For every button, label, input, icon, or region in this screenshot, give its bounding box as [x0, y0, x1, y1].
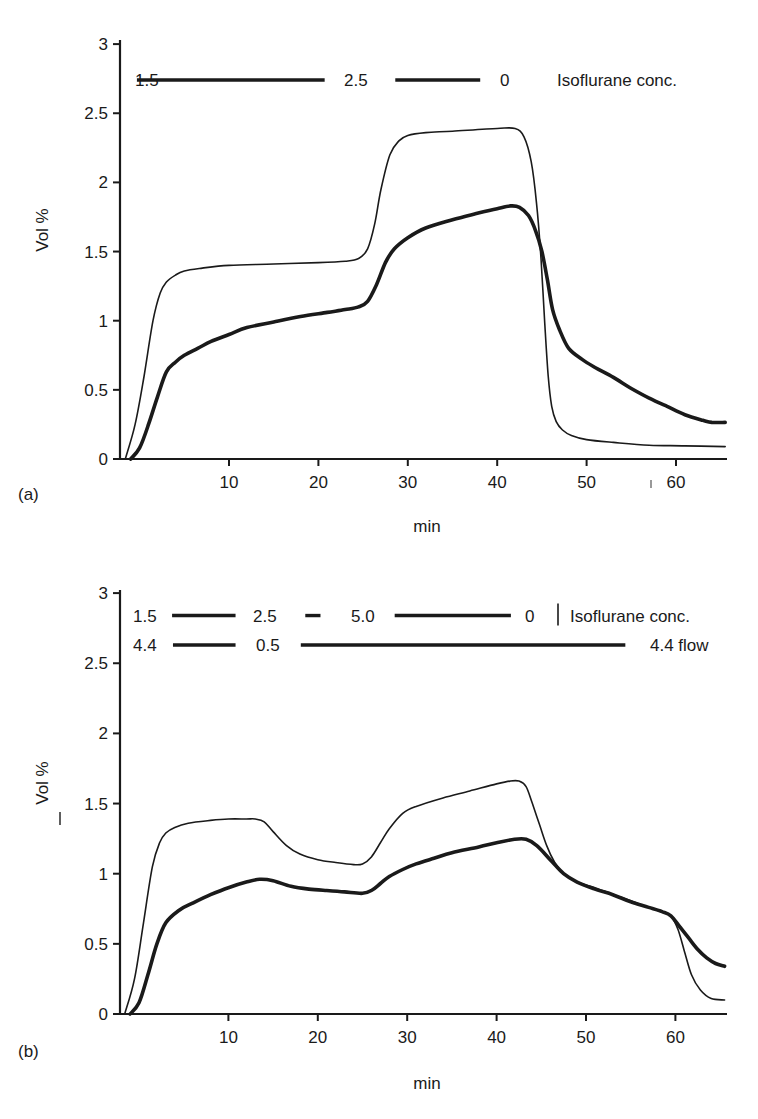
legend-value-label: 5.0 — [351, 607, 375, 626]
y-tick-label: 0.5 — [84, 381, 108, 400]
y-tick-label: 2 — [99, 173, 108, 192]
y-tick-label: 3 — [99, 35, 108, 54]
x-tick-label: 20 — [308, 1028, 327, 1047]
legend-value-label: 0 — [500, 71, 509, 90]
x-tick-label: 30 — [398, 473, 417, 492]
panel-b-legend-bars: 1.52.55.00Isoflurane conc.4.40.54.4 flow — [133, 604, 709, 655]
x-tick-label: 30 — [398, 1028, 417, 1047]
legend-title: Isoflurane conc. — [570, 607, 690, 626]
legend-value-label: 0.5 — [256, 636, 280, 655]
x-tick-label: 60 — [666, 1028, 685, 1047]
y-tick-label: 1 — [99, 312, 108, 331]
legend-value-label: 4.4 — [133, 636, 157, 655]
x-tick-label: 10 — [220, 473, 239, 492]
panel-b-chart: 00.511.522.53102030405060 1.52.55.00Isof… — [18, 584, 727, 1093]
panel-a-axes: 00.511.522.53102030405060 — [84, 35, 727, 492]
panel-a-x-axis-label: min — [413, 517, 440, 536]
panel-b-thick-curve — [130, 839, 725, 1014]
y-tick-label: 2.5 — [84, 654, 108, 673]
panel-b-thin-curve — [125, 781, 725, 1014]
x-tick-label: 10 — [219, 1028, 238, 1047]
legend-value-label: 4.4 flow — [650, 636, 709, 655]
y-tick-label: 1.5 — [84, 795, 108, 814]
x-tick-label: 50 — [577, 1028, 596, 1047]
legend-title: Isoflurane conc. — [557, 71, 677, 90]
y-tick-label: 2 — [99, 724, 108, 743]
panel-b-y-axis-label: Vol % — [33, 761, 52, 804]
y-tick-label: 0 — [99, 450, 108, 469]
legend-value-label: 1.5 — [133, 607, 157, 626]
panel-a-chart: 00.511.522.53102030405060 1.52.50Isoflur… — [18, 35, 727, 536]
figure: 00.511.522.53102030405060 1.52.50Isoflur… — [0, 0, 758, 1119]
panel-a-y-axis-label: Vol % — [33, 208, 52, 251]
legend-value-label: 2.5 — [344, 71, 368, 90]
y-tick-label: 3 — [99, 584, 108, 603]
x-tick-label: 20 — [309, 473, 328, 492]
y-tick-label: 0 — [99, 1005, 108, 1024]
y-tick-label: 0.5 — [84, 935, 108, 954]
legend-value-label: 2.5 — [253, 607, 277, 626]
x-tick-label: 50 — [577, 473, 596, 492]
panel-a-label: (a) — [18, 485, 39, 504]
panel-b-x-axis-label: min — [413, 1074, 440, 1093]
panel-a-legend-bars: 1.52.50Isoflurane conc. — [135, 71, 677, 90]
x-tick-label: 40 — [488, 473, 507, 492]
panel-a-thick-curve — [131, 206, 726, 459]
panel-b-label: (b) — [18, 1042, 39, 1061]
y-tick-label: 1.5 — [84, 243, 108, 262]
legend-value-label: 0 — [525, 607, 534, 626]
y-tick-label: 2.5 — [84, 104, 108, 123]
x-tick-label: 60 — [667, 473, 686, 492]
panel-b-axes: 00.511.522.53102030405060 — [84, 584, 727, 1047]
x-tick-label: 40 — [487, 1028, 506, 1047]
panel-a-thin-curve — [125, 128, 725, 459]
y-tick-label: 1 — [99, 865, 108, 884]
